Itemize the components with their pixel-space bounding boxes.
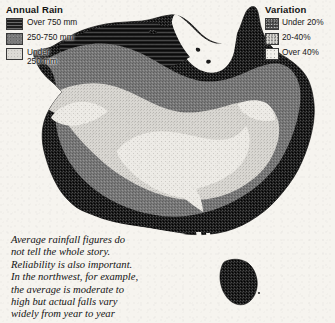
legend-item-under-250mm: Under 250 mm	[6, 47, 77, 67]
legend-item-20-40-percent: 20-40%	[265, 32, 324, 45]
legend-label-under-250mm: Under 250 mm	[27, 47, 57, 67]
swatch-20-40-percent	[265, 33, 279, 45]
map-island-tasmania	[220, 259, 260, 305]
legend-label-over-40-percent: Over 40%	[282, 47, 319, 57]
map-feature-bass-strait	[211, 236, 284, 258]
legend-item-under-20-percent: Under 20%	[265, 17, 324, 30]
swatch-under-20-percent	[265, 18, 279, 30]
legend-label-under-20-percent: Under 20%	[282, 17, 324, 27]
swatch-over-40-percent	[265, 48, 279, 60]
legend-item-250-750mm: 250-750 mm	[6, 32, 77, 45]
legend-label-20-40-percent: 20-40%	[282, 32, 311, 42]
map-figure: Annual Rain Over 750 mm 250-750 mm Under…	[0, 0, 335, 323]
map-feature-shark-bay	[22, 128, 37, 142]
legend-item-over-40-percent: Over 40%	[265, 47, 324, 60]
swatch-250-750mm	[6, 33, 23, 45]
swatch-under-250mm	[6, 48, 23, 60]
legend-annual-rain-title: Annual Rain	[6, 4, 77, 15]
legend-variation: Variation Under 20% 20-40% Over 40%	[265, 4, 324, 62]
legend-label-over-750mm: Over 750 mm	[27, 17, 77, 27]
map-caption: Average rainfall figures do not tell the…	[11, 234, 179, 321]
legend-annual-rain: Annual Rain Over 750 mm 250-750 mm Under…	[6, 4, 77, 69]
legend-label-250-750mm: 250-750 mm	[27, 32, 74, 42]
legend-variation-title: Variation	[265, 4, 324, 15]
legend-item-over-750mm: Over 750 mm	[6, 17, 77, 30]
swatch-over-750mm	[6, 18, 23, 30]
